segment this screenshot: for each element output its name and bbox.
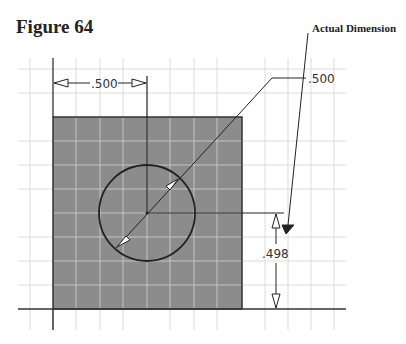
vertical-dimension-value: .498 [262, 247, 289, 261]
horizontal-dimension-value: .500 [91, 77, 118, 91]
cad-sketch-drawing: .500 .500 .498 [0, 0, 406, 344]
callout-arrow [282, 33, 308, 234]
diameter-dimension-value: .500 [308, 72, 335, 86]
